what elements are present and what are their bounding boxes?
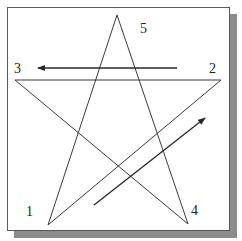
vertex-label-3: 3	[14, 62, 21, 76]
pentagram-diagram	[0, 0, 242, 241]
edge-5-1	[48, 15, 117, 225]
vertex-label-5: 5	[140, 22, 147, 36]
star-edges	[15, 15, 221, 225]
direction-arrows	[38, 68, 205, 205]
vertex-label-2: 2	[209, 62, 216, 76]
vertex-label-1: 1	[26, 205, 33, 219]
vertex-label-4: 4	[191, 204, 198, 218]
edge-4-5	[117, 15, 188, 224]
